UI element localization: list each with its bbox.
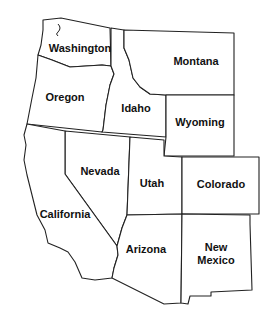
label-wyoming: Wyoming — [175, 116, 224, 128]
state-arizona[interactable] — [112, 214, 182, 304]
label-oregon: Oregon — [45, 91, 84, 103]
western-us-map: Washington Oregon Idaho Montana Wyoming … — [0, 0, 276, 321]
label-arizona: Arizona — [126, 243, 167, 255]
label-montana: Montana — [173, 55, 219, 67]
label-new-mexico-line2: Mexico — [197, 254, 235, 266]
label-nevada: Nevada — [80, 165, 120, 177]
label-washington: Washington — [49, 42, 112, 54]
label-colorado: Colorado — [197, 178, 246, 190]
label-idaho: Idaho — [121, 102, 151, 114]
label-california: California — [40, 208, 92, 220]
label-utah: Utah — [140, 177, 165, 189]
label-new-mexico-line1: New — [205, 241, 228, 253]
